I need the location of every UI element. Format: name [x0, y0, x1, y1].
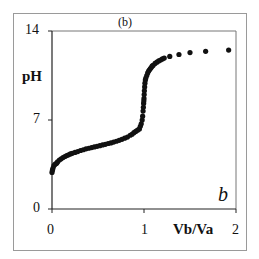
data-point [226, 47, 231, 52]
data-point [187, 50, 192, 55]
x-axis-label: Vb/Va [173, 221, 213, 238]
panel-label: b [218, 183, 228, 206]
data-point [140, 114, 145, 119]
data-point [203, 49, 208, 54]
x-tick-label-2: 2 [232, 222, 239, 238]
data-point [176, 52, 181, 57]
data-points [49, 47, 231, 175]
x-tick-label-1: 1 [141, 222, 148, 238]
titration-chart [0, 0, 259, 259]
y-axis-label: pH [22, 68, 42, 85]
y-tick-label-0: 0 [33, 200, 40, 216]
y-tick-label-7: 7 [33, 111, 40, 127]
data-point [167, 54, 172, 59]
chart-title: (b) [118, 15, 132, 30]
x-tick-label-0: 0 [47, 222, 54, 238]
data-point [162, 55, 167, 60]
y-tick-label-14: 14 [25, 22, 39, 38]
